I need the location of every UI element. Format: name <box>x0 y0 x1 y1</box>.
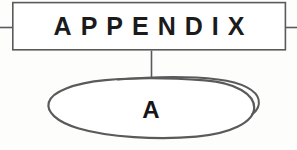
header-box-label: APPENDIX <box>12 10 286 42</box>
appendix-letter-label: A <box>131 96 171 124</box>
appendix-divider-page: APPENDIX A <box>0 0 297 150</box>
